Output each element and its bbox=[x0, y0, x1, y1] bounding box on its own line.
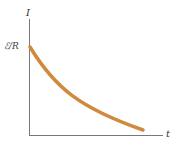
y-axis-label: I bbox=[26, 8, 30, 18]
decay-curve bbox=[30, 47, 143, 130]
x-axis-label: t bbox=[166, 129, 170, 139]
current-decay-chart: I t ℰ/R bbox=[0, 0, 182, 144]
chart-plot-area bbox=[0, 0, 182, 144]
y-intercept-label: ℰ/R bbox=[4, 42, 19, 51]
